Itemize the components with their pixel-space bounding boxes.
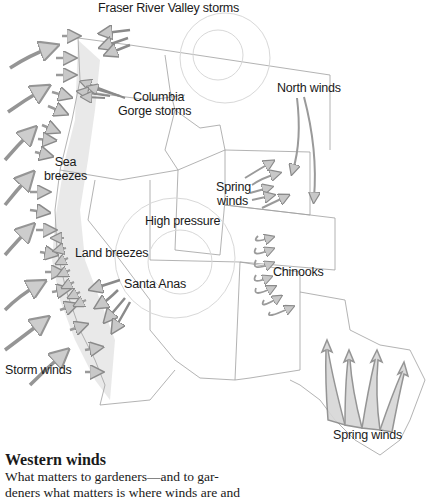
label-spring-line2: winds	[216, 194, 251, 208]
label-sea-line1: Sea	[44, 155, 87, 169]
label-north-winds: North winds	[277, 81, 341, 95]
label-fraser-river-valley-storms: Fraser River Valley storms	[98, 1, 239, 15]
label-spring-winds-wy: Spring winds	[216, 180, 251, 208]
label-high-pressure: High pressure	[145, 214, 220, 228]
label-chinooks: Chinooks	[273, 265, 324, 279]
label-spring-line1: Spring	[216, 180, 251, 194]
label-sea-line2: breezes	[44, 169, 87, 183]
fraser-arrows	[105, 30, 130, 53]
label-sea-breezes: Sea breezes	[44, 155, 87, 183]
label-spring-winds-tx: Spring winds	[333, 428, 402, 442]
caption-body-line2: deners what matters is where winds are a…	[5, 484, 240, 501]
north-wind-arrows	[293, 97, 315, 198]
label-columbia-gorge-storms: Columbia Gorge storms	[118, 90, 191, 118]
storm-wind-arrows	[5, 48, 62, 385]
spring-wind-arrows-wy	[245, 163, 285, 208]
label-land-breezes: Land breezes	[75, 246, 148, 260]
high-pressure-rings	[115, 13, 270, 318]
label-columbia-line2: Gorge storms	[118, 104, 191, 118]
caption-body-line1: What matters to gardeners—and to gar-	[5, 468, 219, 485]
label-santa-anas: Santa Anas	[124, 277, 186, 291]
label-storm-winds: Storm winds	[5, 363, 72, 377]
caption-title: Western winds	[5, 451, 106, 469]
label-columbia-line1: Columbia	[118, 90, 191, 104]
spring-wind-arrows-tx	[322, 340, 408, 432]
